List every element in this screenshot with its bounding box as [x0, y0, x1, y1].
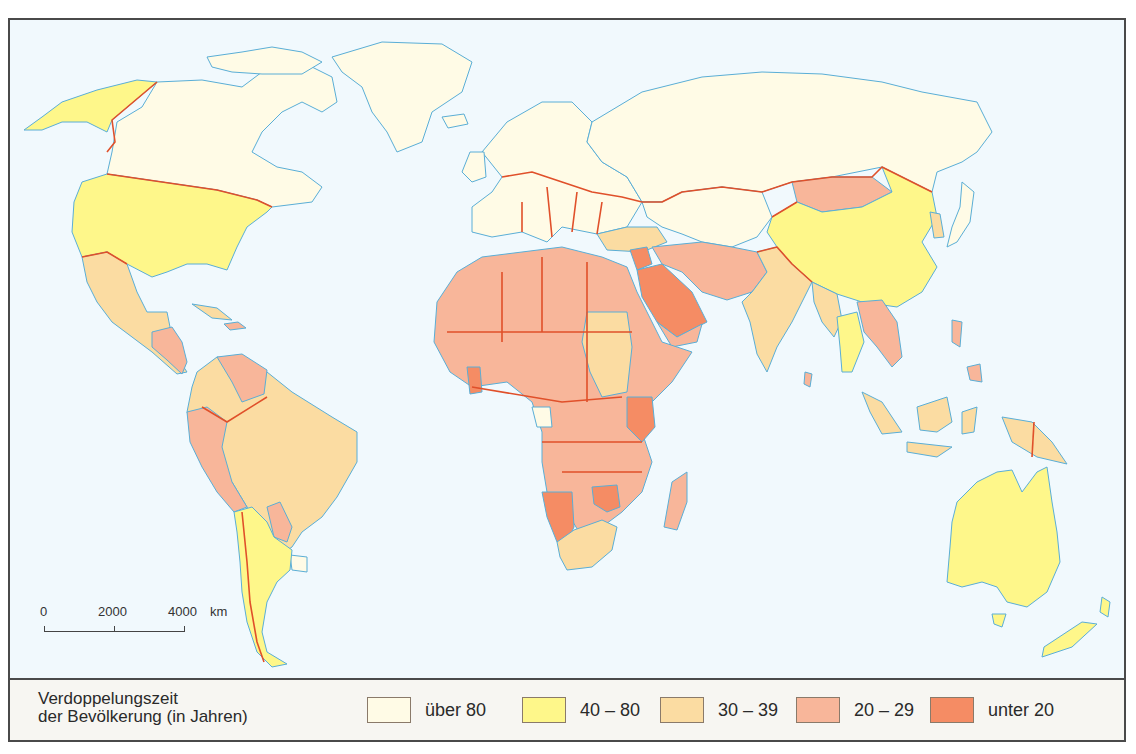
- region-syria[interactable]: [630, 247, 652, 270]
- legend-label: 40 – 80: [580, 700, 640, 721]
- map-frame: 0 2000 4000 km Verdoppelungszeit der Bev…: [8, 18, 1126, 742]
- legend-item-30-39: 30 – 39: [660, 696, 778, 724]
- scale-tick-label: 4000: [168, 604, 197, 619]
- legend-label: über 80: [425, 700, 486, 721]
- legend-item-unter-20: unter 20: [930, 696, 1054, 724]
- region-australia[interactable]: [947, 467, 1060, 607]
- legend-swatch: [522, 697, 566, 723]
- legend-swatch: [930, 697, 974, 723]
- world-map: [10, 20, 1124, 678]
- region-sri-lanka[interactable]: [804, 372, 812, 387]
- legend-swatch: [660, 697, 704, 723]
- region-haiti[interactable]: [224, 322, 246, 330]
- region-tasmania[interactable]: [992, 614, 1006, 627]
- region-japan[interactable]: [947, 182, 974, 247]
- region-ghana[interactable]: [467, 367, 482, 394]
- region-philippines[interactable]: [952, 320, 982, 382]
- legend-label: unter 20: [988, 700, 1054, 721]
- world-map-svg: [10, 20, 1124, 678]
- legend-title-line1: Verdoppelungszeit: [38, 690, 248, 708]
- legend-swatch: [796, 697, 840, 723]
- region-indochina[interactable]: [857, 300, 902, 367]
- region-new-zealand[interactable]: [1042, 597, 1110, 657]
- legend: Verdoppelungszeit der Bevölkerung (in Ja…: [10, 678, 1124, 740]
- region-uruguay[interactable]: [290, 555, 307, 572]
- region-arctic-islands: [207, 47, 322, 74]
- region-indonesia[interactable]: [862, 392, 977, 457]
- scale-tick-label: 2000: [98, 604, 127, 619]
- scale-unit: km: [210, 604, 227, 619]
- region-thailand[interactable]: [837, 312, 864, 372]
- legend-item-ueber-80: über 80: [367, 696, 486, 724]
- legend-label: 20 – 29: [854, 700, 914, 721]
- legend-item-40-80: 40 – 80: [522, 696, 640, 724]
- legend-swatch: [367, 697, 411, 723]
- region-iceland[interactable]: [442, 114, 468, 128]
- legend-title-line2: der Bevölkerung (in Jahren): [38, 708, 248, 726]
- legend-label: 30 – 39: [718, 700, 778, 721]
- region-caribbean: [192, 304, 232, 320]
- region-uk[interactable]: [462, 152, 486, 182]
- region-gabon[interactable]: [532, 407, 552, 427]
- scale-tick: [114, 626, 115, 632]
- legend-item-20-29: 20 – 29: [796, 696, 914, 724]
- region-madagascar[interactable]: [664, 472, 687, 530]
- legend-title: Verdoppelungszeit der Bevölkerung (in Ja…: [38, 690, 248, 726]
- scale-tick-label: 0: [40, 604, 47, 619]
- region-greenland[interactable]: [332, 42, 472, 152]
- region-korea[interactable]: [930, 212, 944, 238]
